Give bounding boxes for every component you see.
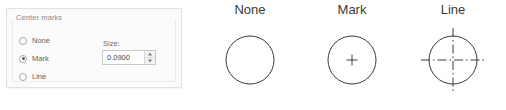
circle-with-centerlines-icon xyxy=(403,22,503,92)
radio-indicator-mark[interactable] xyxy=(19,55,27,63)
radio-indicator-line[interactable] xyxy=(19,73,27,81)
size-spin-buttons[interactable] xyxy=(144,51,155,64)
radio-label-mark: Mark xyxy=(32,54,49,63)
diagram-mark: Mark xyxy=(302,2,402,102)
size-label: Size: xyxy=(103,39,120,48)
group-title: Center marks xyxy=(16,13,62,22)
plain-circle-icon xyxy=(200,22,300,92)
radio-label-line: Line xyxy=(32,72,46,81)
diagram-none: None xyxy=(200,2,300,102)
size-stepper[interactable] xyxy=(102,50,156,65)
radio-option-line[interactable]: Line xyxy=(19,72,46,81)
radio-label-none: None xyxy=(32,36,50,45)
radio-option-none[interactable]: None xyxy=(19,36,50,45)
diagram-title-none: None xyxy=(200,2,300,17)
radio-indicator-none[interactable] xyxy=(19,37,27,45)
diagram-line: Line xyxy=(403,2,503,102)
radio-option-mark[interactable]: Mark xyxy=(19,54,49,63)
size-input[interactable] xyxy=(103,51,144,64)
center-marks-panel: Center marks None Mark Line Size: xyxy=(6,8,182,88)
circle-with-center-mark-icon xyxy=(302,22,402,92)
diagram-title-mark: Mark xyxy=(302,2,402,17)
spin-down-icon[interactable] xyxy=(145,57,155,64)
diagram-title-line: Line xyxy=(403,2,503,17)
